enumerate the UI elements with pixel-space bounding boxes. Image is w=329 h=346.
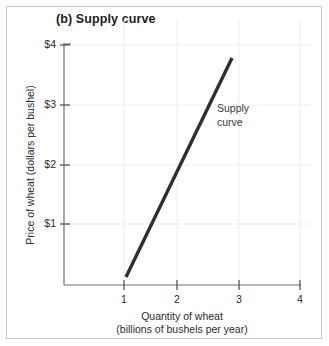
supply-curve-annotation-line1: Supply (217, 102, 250, 114)
supply-curve-series (126, 58, 232, 277)
x-axis-ticks: 1 2 3 4 (121, 280, 303, 305)
x-tick-label-4: 4 (297, 293, 303, 305)
supply-curve-line (126, 58, 232, 277)
y-tick-label-4: $4 (44, 38, 56, 50)
x-tick-label-2: 2 (174, 293, 180, 305)
figure-panel: (b) Supply curve $4 (0, 0, 329, 346)
x-tick-label-1: 1 (121, 293, 127, 305)
y-tick-label-1: $1 (44, 217, 56, 229)
supply-curve-chart: $4 $3 $2 $1 1 2 3 4 Supply curve Quantit… (0, 0, 329, 346)
x-tick-label-3: 3 (236, 293, 242, 305)
supply-curve-annotation: Supply curve (217, 102, 250, 128)
y-axis-ticks: $4 $3 $2 $1 (44, 38, 70, 229)
x-axis-title-line2: (billions of bushels per year) (116, 323, 247, 335)
x-axis-title-line1: Quantity of wheat (141, 310, 223, 322)
supply-curve-annotation-line2: curve (217, 116, 243, 128)
y-tick-label-3: $3 (44, 98, 56, 110)
y-axis-title: Price of wheat (dollars per bushel) (24, 85, 36, 244)
y-tick-label-2: $2 (44, 158, 56, 170)
